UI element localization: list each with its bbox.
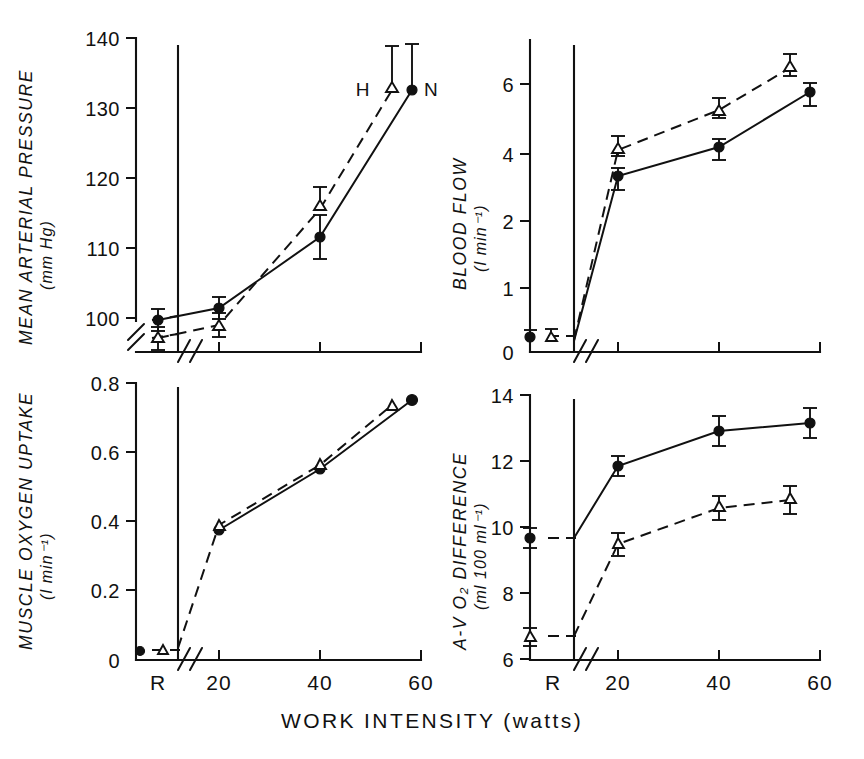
avo2-y-axis-title: A-V O₂ DIFFERENCE: [450, 452, 470, 651]
map-ytick-140: 140: [85, 28, 120, 50]
figure-x-axis-title: WORK INTENSITY (watts): [281, 709, 583, 732]
bf-ytick-6: 6: [502, 74, 514, 96]
avo2-ytick-10: 10: [491, 517, 514, 539]
mvo2-ytick-0-8: 0.8: [91, 373, 120, 395]
mvo2-xtick-40: 40: [307, 671, 332, 694]
mvo2-ytick-0-4: 0.4: [91, 511, 120, 533]
bf-ytick-0: 0: [502, 342, 514, 364]
mvo2-ytick-0-6: 0.6: [91, 442, 120, 464]
mvo2-xtick-20: 20: [206, 671, 231, 694]
four-panel-physiology-chart: MEAN ARTERIAL PRESSURE (mm Hg) 140 130 1…: [0, 0, 864, 759]
avo2-xtick-R: R: [545, 671, 561, 694]
figure-root: MEAN ARTERIAL PRESSURE (mm Hg) 140 130 1…: [0, 0, 864, 759]
map-ytick-110: 110: [87, 238, 120, 260]
map-label-n: N: [424, 79, 438, 100]
map-ytick-100: 100: [85, 308, 120, 330]
bf-ytick-1: 1: [502, 278, 514, 300]
mvo2-ytick-0-2: 0.2: [91, 580, 120, 602]
mvo2-y-axis-units: (l min⁻¹): [38, 532, 55, 600]
map-y-axis-title: MEAN ARTERIAL PRESSURE: [16, 69, 36, 345]
avo2-xtick-40: 40: [706, 671, 731, 694]
mvo2-y-axis-title: MUSCLE OXYGEN UPTAKE: [16, 392, 36, 650]
bf-ytick-4: 4: [502, 144, 514, 166]
bf-y-axis-title: BLOOD FLOW: [450, 157, 470, 290]
avo2-ytick-8: 8: [502, 583, 514, 605]
avo2-xtick-20: 20: [605, 671, 630, 694]
map-y-axis-units: (mm Hg): [38, 220, 55, 290]
mvo2-xtick-R: R: [150, 671, 166, 694]
avo2-xtick-60: 60: [807, 671, 832, 694]
map-label-h: H: [356, 79, 370, 100]
map-ytick-130: 130: [85, 98, 120, 120]
avo2-ytick-14: 14: [491, 385, 514, 407]
mvo2-ytick-0: 0: [108, 650, 120, 672]
avo2-ytick-6: 6: [502, 649, 514, 671]
map-ytick-120: 120: [85, 168, 120, 190]
avo2-ytick-12: 12: [491, 451, 514, 473]
figure-background: [0, 0, 864, 759]
avo2-y-axis-units: (ml 100 ml⁻¹): [472, 502, 489, 610]
mvo2-xtick-60: 60: [408, 671, 433, 694]
bf-ytick-2: 2: [502, 211, 514, 233]
bf-y-axis-units: (l min⁻¹): [472, 204, 489, 272]
